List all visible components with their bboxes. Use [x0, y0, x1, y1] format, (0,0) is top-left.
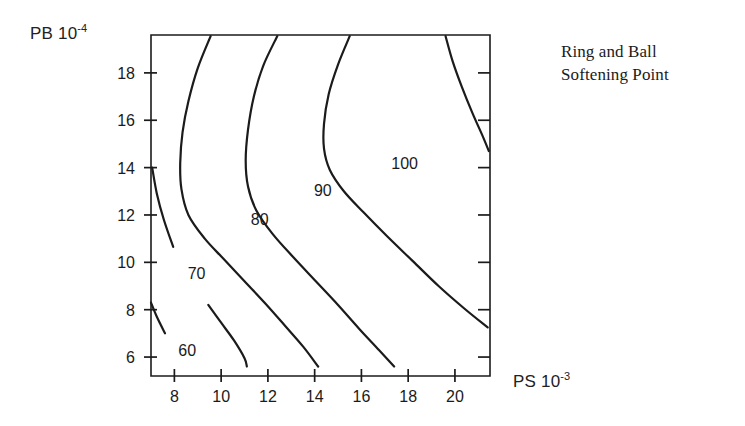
plot-border [151, 35, 490, 376]
x-tick-label: 8 [170, 388, 179, 405]
x-tick-label: 14 [306, 388, 324, 405]
y-tick-label: 8 [126, 302, 135, 319]
contour-label-80: 80 [251, 211, 269, 228]
contour-line-90 [246, 36, 394, 366]
contour-line-80 [180, 36, 318, 366]
y-tick-label: 16 [117, 112, 135, 129]
y-axis-title: PB 10-4 [30, 22, 87, 44]
plot-title-line-1: Ring and Ball [561, 42, 657, 61]
plot-title: Ring and Ball Softening Point [561, 40, 741, 87]
x-axis-title-base: PS 10 [513, 372, 560, 391]
contour-figure: PB 10-4 PS 10-3 Ring and Ball Softening … [0, 0, 745, 426]
contour-line-100 [446, 36, 489, 151]
contour-labels: 60708090100 [178, 155, 418, 359]
contour-line-100 [323, 36, 487, 327]
contour-lines [151, 36, 489, 366]
contour-line-70 [208, 305, 247, 367]
contour-label-60: 60 [178, 342, 196, 359]
y-tick-label: 18 [117, 65, 135, 82]
x-tick-label: 12 [259, 388, 277, 405]
y-tick-label: 14 [117, 160, 135, 177]
y-axis-title-base: PB 10 [30, 24, 77, 43]
x-axis-title-exponent: -3 [560, 370, 570, 382]
y-tick-label: 10 [117, 254, 135, 271]
y-tick-label: 6 [126, 349, 135, 366]
contour-label-100: 100 [391, 155, 418, 172]
contour-label-70: 70 [188, 265, 206, 282]
x-tick-label: 16 [353, 388, 371, 405]
x-tick-label: 10 [212, 388, 230, 405]
contour-line-60 [151, 303, 165, 334]
y-tick-label: 12 [117, 207, 135, 224]
contour-label-90: 90 [314, 182, 332, 199]
x-tick-label: 18 [399, 388, 417, 405]
contour-line-70 [152, 168, 173, 247]
y-axis-title-exponent: -4 [77, 22, 87, 34]
axis-frame [151, 35, 490, 376]
plot-title-line-2: Softening Point [561, 63, 741, 86]
x-axis-title: PS 10-3 [513, 370, 570, 392]
x-tick-label: 20 [446, 388, 464, 405]
